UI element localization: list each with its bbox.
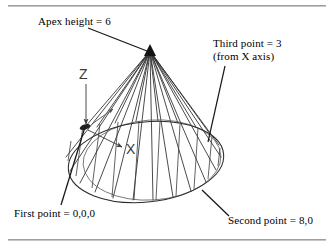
second-point-label: Second point = 8,0 [228,214,313,227]
cone-diagram-figure: Apex height = 6 Third point = 3 (from X … [0,0,333,248]
third-point-label: Third point = 3 (from X axis) [213,37,282,62]
leader-line-apex [88,28,147,51]
x-axis-label: X [126,141,135,157]
z-axis-label: Z [79,66,88,82]
apex-height-label: Apex height = 6 [38,15,111,28]
leader-line-second-point [202,190,229,216]
first-point-label: First point = 0,0,0 [14,207,95,220]
leader-line-third-point [208,66,225,142]
leader-line-first-point [61,127,85,205]
